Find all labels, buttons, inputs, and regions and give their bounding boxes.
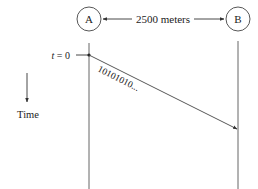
node-b-label: B (234, 13, 241, 25)
propagation-diagram: A B 2500 meters t = 0 10101010... Time (0, 0, 258, 189)
time-axis-label: Time (17, 109, 39, 120)
distance-label: 2500 meters (136, 13, 190, 25)
bit-stream-label: 10101010... (96, 64, 141, 93)
node-a: A (77, 7, 101, 31)
time-zero-label: t = 0 (52, 50, 70, 61)
node-b: B (226, 7, 250, 31)
node-a-label: A (85, 13, 93, 25)
signal-propagation-arrow-icon (89, 55, 237, 129)
